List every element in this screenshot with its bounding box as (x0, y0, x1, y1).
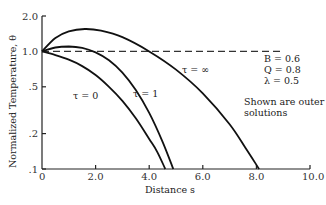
param-b: B = 0.6 (264, 53, 300, 64)
param-q: Q = 0.8 (264, 64, 301, 75)
param-lambda: λ = 0.5 (264, 75, 299, 86)
x-tick-label: 0 (39, 171, 45, 182)
chart: 02.04.06.08.010.0.1.2.51.02.0 Distance s… (0, 0, 326, 205)
y-axis-label: Normalized Temperature, θ (7, 35, 18, 168)
curve-label-tau-0: τ = 0 (73, 90, 98, 101)
x-tick-label: 6.0 (195, 171, 211, 182)
y-tick-label: .5 (28, 81, 38, 92)
x-tick-label: 8.0 (248, 171, 264, 182)
y-tick-label: 2.0 (22, 11, 38, 22)
note-line-1: Shown are outer (244, 96, 325, 107)
y-tick-label: 1.0 (22, 46, 38, 57)
x-tick-label: 4.0 (141, 171, 157, 182)
y-tick-label: .1 (28, 164, 38, 175)
x-tick-label: 10.0 (302, 171, 324, 182)
x-axis-label: Distance s (145, 184, 195, 195)
y-tick-label: .2 (28, 128, 38, 139)
note-line-2: solutions (244, 107, 287, 118)
curve-label-tau-inf: τ = ∞ (182, 64, 209, 75)
x-tick-label: 2.0 (88, 171, 104, 182)
curve-tau-1 (42, 47, 173, 170)
curve-label-tau-1: τ = 1 (133, 88, 158, 99)
